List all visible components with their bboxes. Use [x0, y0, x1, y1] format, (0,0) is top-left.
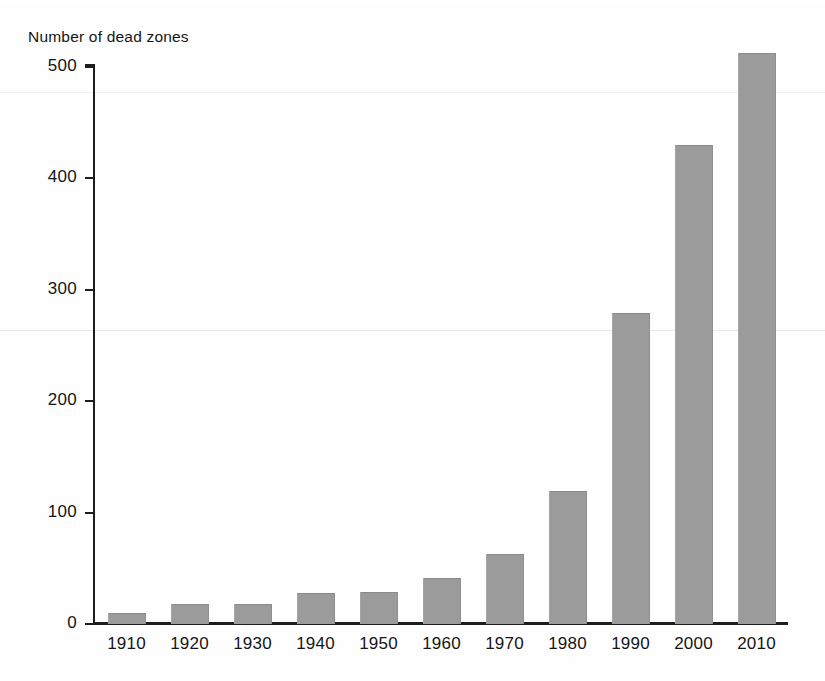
plot-area: [95, 60, 788, 624]
bar: [486, 554, 524, 624]
y-axis-tick-mark: [85, 66, 94, 68]
y-axis-tick-mark: [85, 177, 94, 179]
chart-title: Number of dead zones: [28, 28, 189, 46]
y-axis-tick-label: 500: [11, 56, 77, 76]
bar: [738, 53, 776, 624]
bar: [108, 613, 146, 624]
bar: [297, 593, 335, 624]
bar: [423, 578, 461, 624]
page-top-edge: [0, 0, 825, 3]
bar: [171, 604, 209, 624]
y-axis-tick-label: 200: [11, 390, 77, 410]
bar: [360, 592, 398, 624]
bar-chart-figure: Number of dead zones 0100200300400500 19…: [0, 0, 825, 681]
y-axis-tick-label: 0: [11, 613, 77, 633]
y-axis-tick-mark: [85, 512, 94, 514]
y-axis-tick-label: 300: [11, 279, 77, 299]
y-axis-tick-mark: [85, 289, 94, 291]
y-axis-tick-label: 400: [11, 167, 77, 187]
x-axis-tick-label: 2010: [717, 634, 797, 654]
bar: [675, 145, 713, 624]
y-axis-tick-mark: [85, 623, 94, 625]
bar: [234, 604, 272, 624]
bar: [549, 491, 587, 624]
y-axis-tick-mark: [85, 400, 94, 402]
y-axis-tick-label: 100: [11, 502, 77, 522]
bar: [612, 313, 650, 624]
